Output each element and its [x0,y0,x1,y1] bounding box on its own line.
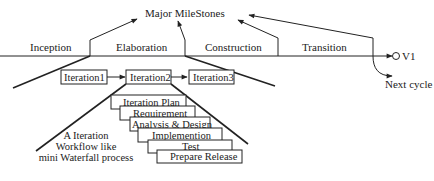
phase-transition: Transition [302,41,347,53]
iteration-1-label: Iteration1 [64,72,105,83]
annotation-line-1: A Iteration [63,130,109,141]
phase-elaboration: Elaboration [116,41,168,53]
step-implemention: Implemention [152,130,212,141]
annotation-line-2: Workflow like [56,141,117,152]
iteration-2-label: Iteration2 [130,72,171,83]
next-cycle-arrow [373,56,392,76]
release-label: V1 [402,50,415,62]
milestones-title: Major MileStones [145,7,225,19]
step-prepare-release: Prepare Release [170,151,238,162]
annotation-line-3: mini Waterfall process [39,152,134,163]
release-marker-icon [393,53,400,60]
rup-iteration-diagram: Major MileStones Inception Elaboration C… [0,0,434,181]
milestone-arrow-2 [178,21,185,56]
phase-inception: Inception [30,41,72,53]
phase-construction: Construction [205,41,262,53]
iteration-3-label: Iteration3 [193,72,234,83]
next-cycle-label: Next cycle [385,78,432,90]
